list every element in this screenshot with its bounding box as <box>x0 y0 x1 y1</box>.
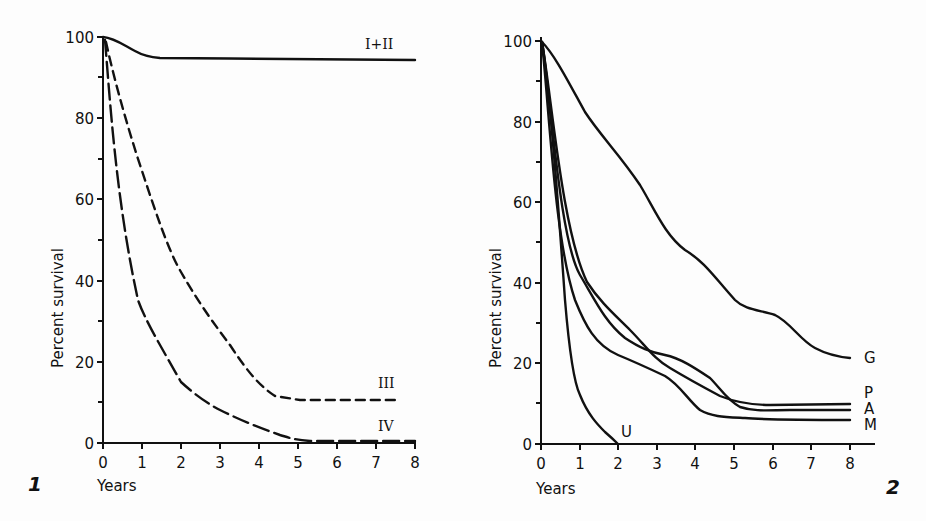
x-tick-0: 0 <box>98 454 108 472</box>
y-tick-40: 40 <box>513 275 532 293</box>
label-U: U <box>621 423 632 441</box>
y-axis-title: Percent survival <box>49 248 67 368</box>
figure-canvas: 100 80 60 40 20 0 0 1 2 3 4 5 6 7 <box>0 0 926 521</box>
x-tick-3: 3 <box>215 454 225 472</box>
figure-1: 100 80 60 40 20 0 0 1 2 3 4 5 6 7 <box>28 29 420 496</box>
x-tick-5: 5 <box>293 454 303 472</box>
label-I-II: I+II <box>365 36 393 52</box>
label-III: III <box>378 375 395 391</box>
y-tick-100: 100 <box>503 33 532 51</box>
x-tick-5: 5 <box>729 455 739 473</box>
x-tick-1: 1 <box>575 455 585 473</box>
figure-2: 100 80 60 40 20 0 0 1 2 3 4 5 6 7 <box>487 33 900 499</box>
series-A-line <box>542 42 850 410</box>
series-IV-line <box>105 40 415 441</box>
x-tick-6: 6 <box>332 454 342 472</box>
y-tick-80: 80 <box>513 114 532 132</box>
y-tick-60: 60 <box>75 191 94 209</box>
x-tick-7: 7 <box>371 454 381 472</box>
x-tick-7: 7 <box>806 455 816 473</box>
x-tick-8: 8 <box>845 455 855 473</box>
x-tick-4: 4 <box>254 454 264 472</box>
series-M-line <box>542 42 850 420</box>
y-tick-0: 0 <box>84 435 94 453</box>
y-tick-20: 20 <box>513 355 532 373</box>
x-tick-labels: 0 1 2 3 4 5 6 7 8 <box>98 454 420 472</box>
x-tick-3: 3 <box>652 455 662 473</box>
series-P-line <box>542 42 850 405</box>
x-tick-2: 2 <box>176 454 186 472</box>
y-tick-0: 0 <box>522 436 532 454</box>
y-tick-40: 40 <box>75 273 94 291</box>
series-G-line <box>542 42 850 358</box>
figure-number: 1 <box>28 472 42 496</box>
label-IV: IV <box>378 418 395 434</box>
x-axis-title: Years <box>535 480 576 498</box>
y-tick-labels: 100 80 60 40 20 0 <box>503 33 532 454</box>
x-tick-labels: 0 1 2 3 4 5 6 7 8 <box>536 455 855 473</box>
x-tick-0: 0 <box>536 455 546 473</box>
y-tick-20: 20 <box>75 354 94 372</box>
label-M: M <box>864 416 877 434</box>
x-tick-6: 6 <box>768 455 778 473</box>
x-tick-2: 2 <box>613 455 623 473</box>
series-III-line <box>106 42 395 400</box>
y-tick-80: 80 <box>75 110 94 128</box>
label-G: G <box>864 349 876 367</box>
x-tick-4: 4 <box>690 455 700 473</box>
x-tick-8: 8 <box>410 454 420 472</box>
y-tick-labels: 100 80 60 40 20 0 <box>65 29 94 453</box>
y-tick-60: 60 <box>513 194 532 212</box>
x-tick-1: 1 <box>137 454 147 472</box>
y-tick-100: 100 <box>65 29 94 47</box>
y-axis-title: Percent survival <box>487 248 505 368</box>
x-axis-title: Years <box>96 477 137 495</box>
figure-number: 2 <box>886 475 900 499</box>
